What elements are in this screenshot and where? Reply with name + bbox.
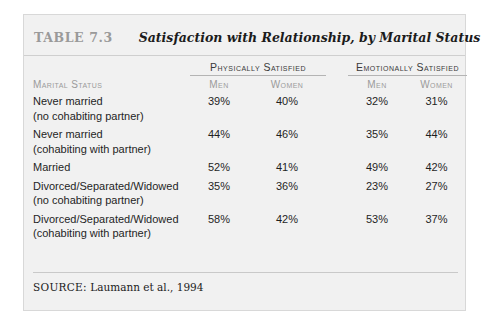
- table-number-label: TABLE 7.3: [34, 30, 113, 45]
- row-label: Never married: [33, 95, 103, 107]
- row-label-cell: Never married (cohabiting with partner): [24, 127, 190, 156]
- row-sublabel: (no cohabiting partner): [33, 193, 190, 208]
- column-header-gap: [326, 76, 348, 95]
- table-row: Divorced/Separated/Widowed (no cohabitin…: [24, 179, 467, 208]
- table-grid: Physically Satisfied Emotionally Satisfi…: [24, 57, 465, 241]
- satisfaction-table: Physically Satisfied Emotionally Satisfi…: [24, 57, 467, 241]
- row-label-cell: Never married (no cohabiting partner): [24, 94, 190, 123]
- source-divider: [33, 272, 458, 273]
- table-row: Never married (cohabiting with partner) …: [24, 127, 467, 156]
- table-figure: TABLE 7.3 Satisfaction with Relationship…: [23, 14, 466, 311]
- cell-physically-men: 39%: [190, 94, 248, 123]
- row-label: Divorced/Separated/Widowed: [33, 180, 179, 192]
- cell-gap: [326, 179, 348, 208]
- row-label-cell: Divorced/Separated/Widowed (cohabiting w…: [24, 212, 190, 241]
- cell-physically-women: 46%: [248, 127, 326, 156]
- table-body: Never married (no cohabiting partner) 39…: [24, 94, 467, 241]
- cell-emotionally-men: 32%: [348, 94, 406, 123]
- column-header-physically-men: Men: [190, 76, 248, 95]
- source-citation: Laumann et al., 1994: [90, 281, 203, 293]
- column-header-marital-status: Marital Status: [24, 76, 190, 95]
- group-header-physically-satisfied: Physically Satisfied: [190, 57, 326, 76]
- table-row: Married 52% 41% 49% 42%: [24, 160, 467, 175]
- table-column-header-row: Marital Status Men Women Men Women: [24, 76, 467, 95]
- cell-physically-women: 41%: [248, 160, 326, 175]
- cell-emotionally-men: 53%: [348, 212, 406, 241]
- row-label: Never married: [33, 128, 103, 140]
- cell-physically-men: 44%: [190, 127, 248, 156]
- table-group-header-row: Physically Satisfied Emotionally Satisfi…: [24, 57, 467, 76]
- column-header-emotionally-women: Women: [406, 76, 467, 95]
- group-header-blank: [24, 57, 190, 76]
- group-header-gap: [326, 57, 348, 76]
- row-label: Divorced/Separated/Widowed: [33, 213, 179, 225]
- row-label-cell: Married: [24, 160, 190, 175]
- table-row: Divorced/Separated/Widowed (cohabiting w…: [24, 212, 467, 241]
- cell-physically-women: 36%: [248, 179, 326, 208]
- cell-emotionally-men: 23%: [348, 179, 406, 208]
- row-label-cell: Divorced/Separated/Widowed (no cohabitin…: [24, 179, 190, 208]
- row-label: Married: [33, 161, 70, 173]
- source-note: SOURCE: Laumann et al., 1994: [33, 281, 203, 293]
- row-sublabel: (cohabiting with partner): [33, 142, 190, 157]
- cell-emotionally-men: 49%: [348, 160, 406, 175]
- cell-emotionally-men: 35%: [348, 127, 406, 156]
- source-label: SOURCE:: [33, 281, 87, 293]
- group-header-emotionally-satisfied: Emotionally Satisfied: [348, 57, 467, 76]
- cell-physically-women: 40%: [248, 94, 326, 123]
- cell-physically-women: 42%: [248, 212, 326, 241]
- cell-emotionally-women: 31%: [406, 94, 467, 123]
- cell-gap: [326, 127, 348, 156]
- cell-emotionally-women: 27%: [406, 179, 467, 208]
- cell-gap: [326, 94, 348, 123]
- column-header-physically-women: Women: [248, 76, 326, 95]
- row-sublabel: (no cohabiting partner): [33, 109, 190, 124]
- cell-emotionally-women: 44%: [406, 127, 467, 156]
- cell-emotionally-women: 42%: [406, 160, 467, 175]
- row-sublabel: (cohabiting with partner): [33, 226, 190, 241]
- table-caption: TABLE 7.3 Satisfaction with Relationship…: [24, 20, 465, 56]
- page-title: Satisfaction with Relationship, by Marit…: [139, 30, 481, 45]
- column-header-emotionally-men: Men: [348, 76, 406, 95]
- cell-emotionally-women: 37%: [406, 212, 467, 241]
- cell-physically-men: 35%: [190, 179, 248, 208]
- table-row: Never married (no cohabiting partner) 39…: [24, 94, 467, 123]
- cell-gap: [326, 212, 348, 241]
- cell-physically-men: 58%: [190, 212, 248, 241]
- cell-physically-men: 52%: [190, 160, 248, 175]
- cell-gap: [326, 160, 348, 175]
